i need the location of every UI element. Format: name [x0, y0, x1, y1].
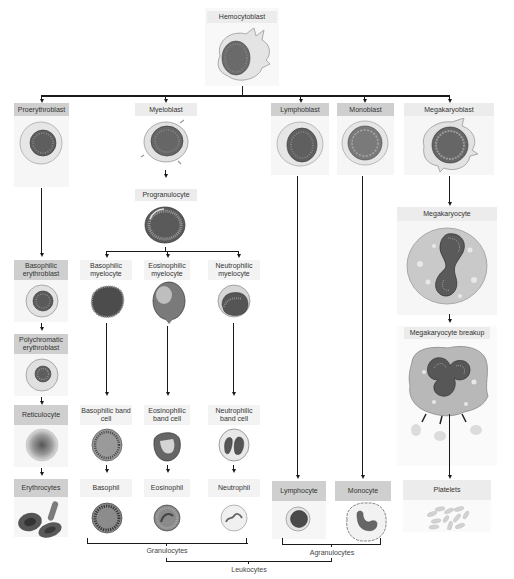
arrow-icon	[105, 392, 109, 396]
myelocyte-branch-bar	[106, 251, 239, 252]
breakup-to-platelets	[449, 414, 450, 476]
erythrocytes-cell-icon	[16, 500, 68, 538]
leukocytes-label: Leukocytes	[220, 566, 278, 573]
myeloblast-cell-icon	[140, 119, 192, 165]
polychromatic-erythroblast-label: Polychromatic erythroblast	[14, 334, 68, 354]
megakaryoblast-to-megakaryocyte	[449, 176, 450, 203]
root-connector-bar	[41, 95, 450, 97]
platelets-icon	[424, 504, 472, 530]
monocyte-cell-icon	[341, 500, 389, 544]
eosinophilic-band-cell-label: Eosinophilic band cell	[144, 405, 190, 425]
basophilic-erythroblast-label: Basophilic erythroblast	[14, 260, 68, 280]
megakaryocyte-breakup-label: Megakaryocyte breakup	[404, 327, 490, 339]
basophilic-myelocyte-label: Basophilic myelocyte	[80, 260, 132, 280]
polychromatic-erythroblast-cell-icon	[24, 357, 60, 393]
agranulocytes-bracket-left-tick	[282, 538, 283, 545]
megakaryoblast-label: Megakaryoblast	[404, 103, 494, 116]
arrow-icon	[40, 327, 44, 331]
lymphocyte-cell-icon	[285, 506, 311, 532]
granulocytes-bracket-center-tick	[166, 543, 167, 546]
agranulocytes-bracket-center-tick	[331, 544, 332, 547]
arrow-icon	[448, 475, 452, 479]
basophilic-myelocyte-to-band	[106, 323, 107, 393]
leukocytes-bracket-left-tick	[166, 558, 167, 562]
arrow-icon	[232, 469, 236, 473]
monoblast-label: Monoblast	[337, 103, 394, 116]
arrow-icon	[237, 254, 241, 258]
reticulocyte-cell-icon	[25, 428, 59, 462]
arrow-icon	[296, 475, 300, 479]
leukocytes-bracket-right-tick	[331, 558, 332, 562]
monoblast-to-monocyte	[362, 176, 363, 476]
myeloblast-label: Myeloblast	[135, 103, 197, 116]
eosinophilic-myelocyte-cell-icon	[151, 281, 187, 325]
megakaryocyte-label: Megakaryocyte	[397, 207, 497, 221]
neutrophilic-myelocyte-to-band	[233, 323, 234, 393]
proerythroblast-cell-icon	[18, 120, 64, 166]
arrow-icon	[166, 392, 170, 396]
lymphoblast-label: Lymphoblast	[271, 103, 329, 116]
hemocytoblast-cell-icon	[210, 26, 276, 84]
agranulocytes-label: Agranulocytes	[300, 549, 364, 556]
progranulocyte-cell-icon	[142, 205, 188, 245]
lymphoblast-to-lymphocyte	[297, 176, 298, 476]
monocyte-label: Monocyte	[335, 481, 391, 501]
neutrophilic-myelocyte-cell-icon	[216, 283, 252, 319]
erythrocytes-label: Erythrocytes	[14, 479, 68, 497]
basophilic-band-cell-label: Basophilic band cell	[80, 405, 132, 425]
neutrophilic-band-cell-icon	[217, 427, 251, 463]
progranulocyte-label: Progranulocyte	[135, 189, 197, 201]
granulocytes-bracket	[87, 543, 248, 544]
arrow-icon	[105, 254, 109, 258]
arrow-icon	[164, 174, 168, 178]
granulocytes-label: Granulocytes	[136, 547, 198, 554]
proerythroblast-label: Proerythroblast	[14, 103, 69, 116]
arrow-icon	[166, 469, 170, 473]
megakaryocyte-cell-icon	[404, 224, 490, 310]
arrow-icon	[232, 392, 236, 396]
hemocytoblast-label: Hemocytoblast	[207, 11, 277, 23]
arrow-icon	[105, 469, 109, 473]
arrow-icon	[40, 472, 44, 476]
monoblast-cell-icon	[340, 119, 390, 167]
lymphocyte-label: Lymphocyte	[272, 481, 326, 501]
basophil-label: Basophil	[80, 479, 132, 497]
proerythroblast-to-basophilic-erythroblast	[41, 188, 42, 254]
basophilic-erythroblast-cell-icon	[25, 284, 59, 318]
neutrophil-cell-icon	[220, 504, 248, 532]
arrow-icon	[166, 254, 170, 258]
arrow-icon	[448, 319, 452, 323]
arrow-icon	[448, 202, 452, 206]
megakaryoblast-cell-icon	[418, 118, 480, 172]
lymphoblast-cell-icon	[275, 120, 325, 168]
basophilic-myelocyte-cell-icon	[89, 283, 125, 319]
megakaryocyte-breakup-cell-icon	[404, 342, 492, 442]
eosinophil-label: Eosinophil	[144, 479, 190, 497]
eosinophil-cell-icon	[153, 504, 181, 532]
eosinophilic-band-cell-icon	[151, 427, 183, 463]
reticulocyte-label: Reticulocyte	[14, 405, 68, 425]
platelets-label: Platelets	[403, 480, 491, 500]
eosinophilic-myelocyte-label: Eosinophilic myelocyte	[144, 260, 190, 280]
neutrophilic-myelocyte-label: Neutrophilic myelocyte	[208, 260, 260, 280]
basophil-cell-icon	[91, 502, 123, 534]
granulocytes-bracket-right-tick	[246, 538, 247, 544]
arrow-icon	[361, 475, 365, 479]
leukocytes-bracket-center-tick	[248, 561, 249, 564]
eosinophilic-myelocyte-to-band	[167, 326, 168, 393]
arrow-icon	[40, 253, 44, 257]
neutrophil-label: Neutrophil	[208, 479, 260, 497]
agranulocytes-bracket-right-tick	[380, 538, 381, 545]
neutrophilic-band-cell-label: Neutrophilic band cell	[208, 405, 260, 425]
granulocytes-bracket-left-tick	[87, 538, 88, 544]
basophilic-band-cell-icon	[90, 427, 124, 463]
